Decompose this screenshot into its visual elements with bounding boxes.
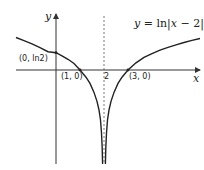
equation-label: y = ln|x − 2| — [133, 17, 204, 31]
label-3-0: (3, 0) — [129, 72, 151, 81]
x-axis-label: x — [193, 72, 200, 85]
label-1-0: (1, 0) — [61, 72, 83, 81]
curve-right-branch — [105, 39, 200, 165]
label-asymptote-2: 2 — [104, 72, 109, 81]
point-3-0 — [127, 69, 130, 72]
point-1-0 — [79, 69, 82, 72]
graph-canvas: y x (0, ln2) (1, 0) (3, 0) 2 y = ln|x − … — [0, 0, 204, 170]
y-axis-label: y — [44, 10, 52, 23]
point-0-ln2 — [55, 51, 58, 54]
label-0-ln2: (0, ln2) — [19, 54, 48, 63]
